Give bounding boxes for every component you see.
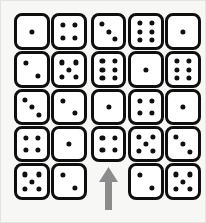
die-pip <box>112 76 117 81</box>
die-pip <box>187 172 192 177</box>
die-pip <box>99 21 104 26</box>
die-pip <box>150 29 155 34</box>
die <box>14 163 50 200</box>
die-pip <box>23 148 28 153</box>
die-pip <box>73 22 78 27</box>
die-pip <box>174 67 179 72</box>
die-pip <box>36 172 41 177</box>
die <box>51 13 87 50</box>
die-pip <box>187 67 192 72</box>
die-pip <box>112 135 117 140</box>
die-pip <box>187 76 192 81</box>
die-pip <box>106 104 111 109</box>
die-pip <box>66 67 71 72</box>
die <box>51 126 87 162</box>
die <box>51 51 87 88</box>
die-pip <box>180 179 185 184</box>
die-pip <box>23 135 28 140</box>
die-pip <box>60 172 65 177</box>
die-pip <box>36 73 41 78</box>
die-pip <box>29 29 34 34</box>
die-pip <box>60 60 65 65</box>
die <box>165 51 201 88</box>
die <box>14 13 50 50</box>
die-pip <box>150 38 155 43</box>
die-pip <box>113 37 118 42</box>
die-pip <box>143 67 148 72</box>
die <box>91 89 126 125</box>
die-pip <box>112 148 117 153</box>
die <box>128 51 164 88</box>
die-pip <box>60 98 65 103</box>
die-pip <box>137 29 142 34</box>
die <box>14 126 50 162</box>
die-pip <box>150 148 155 153</box>
die-pip <box>187 186 192 191</box>
die-pip <box>73 35 78 40</box>
die-pip <box>137 111 142 116</box>
die <box>128 89 164 125</box>
die-pip <box>137 135 142 140</box>
die <box>165 13 201 50</box>
die-pip <box>174 76 179 81</box>
die <box>128 126 164 162</box>
die-pip <box>174 186 179 191</box>
die-pip <box>150 185 155 190</box>
die-pip <box>150 135 155 140</box>
die-pip <box>174 58 179 63</box>
die-pip <box>137 148 142 153</box>
die <box>128 163 164 200</box>
die-pip <box>150 98 155 103</box>
die <box>14 51 50 88</box>
die-pip <box>23 172 28 177</box>
die-pip <box>187 58 192 63</box>
die-pip <box>36 112 41 117</box>
die-pip <box>100 67 105 72</box>
die-pip <box>174 172 179 177</box>
die-pip <box>100 58 105 63</box>
die-pip <box>150 111 155 116</box>
die-pip <box>137 172 142 177</box>
die-pip <box>36 135 41 140</box>
dice-puzzle-frame <box>0 0 206 223</box>
die-pip <box>180 29 185 34</box>
die-pip <box>73 74 78 79</box>
die-pip <box>112 67 117 72</box>
die-pip <box>100 135 105 140</box>
die-pip <box>137 20 142 25</box>
die-pip <box>174 134 179 139</box>
die-pip <box>100 148 105 153</box>
die-pip <box>60 74 65 79</box>
die-pip <box>60 35 65 40</box>
die-pip <box>143 141 148 146</box>
die-pip <box>29 104 34 109</box>
die <box>165 126 201 162</box>
die-pip <box>73 185 78 190</box>
die-pip <box>23 60 28 65</box>
die-pip <box>29 179 34 184</box>
die-pip <box>36 148 41 153</box>
die <box>51 89 87 125</box>
die-pip <box>23 186 28 191</box>
die-pip <box>112 58 117 63</box>
die-pip <box>137 38 142 43</box>
up-arrow-indicator <box>91 165 126 210</box>
die <box>91 13 126 50</box>
arrow-up-icon <box>91 165 126 210</box>
die <box>14 89 50 125</box>
die <box>91 126 126 162</box>
die-pip <box>100 76 105 81</box>
die-pip <box>66 141 71 146</box>
die <box>128 13 164 50</box>
die-pip <box>106 29 111 34</box>
die-pip <box>23 97 28 102</box>
die-pip <box>137 98 142 103</box>
die <box>165 89 201 125</box>
die-pip <box>73 111 78 116</box>
die-pip <box>180 104 185 109</box>
die <box>91 51 126 88</box>
die-pip <box>73 60 78 65</box>
die <box>51 163 87 200</box>
die-pip <box>180 141 185 146</box>
die-pip <box>150 20 155 25</box>
